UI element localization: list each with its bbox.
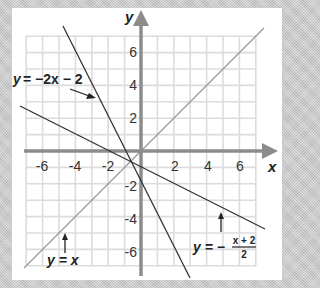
x-tick-label: -6 <box>36 158 49 174</box>
y-tick-label: -6 <box>125 244 138 260</box>
y-tick-label: 6 <box>129 44 137 60</box>
y-tick-label: 4 <box>129 77 137 93</box>
y-tick-label: 2 <box>129 110 137 126</box>
x-axis-label: x <box>267 158 277 175</box>
y-axis-label: y <box>124 8 134 25</box>
eq2-pointer-arrowhead-icon <box>62 233 68 240</box>
y-axis-arrow-icon <box>133 10 149 26</box>
x-tick-label: -2 <box>102 158 115 174</box>
eq3-lhs: y = − <box>192 239 225 255</box>
line-y-eq-x <box>24 28 264 268</box>
x-tick-label: 6 <box>236 158 244 174</box>
y-tick-label: -4 <box>125 211 138 227</box>
eq1-rhs: = −2x − 2 <box>23 71 83 87</box>
x-axis-arrow-icon <box>262 143 278 159</box>
eq2-text: y = x <box>46 252 80 268</box>
eq1-lhs: y <box>12 71 22 87</box>
eq3-numerator: x + 2 <box>233 235 256 246</box>
eq3-denominator: 2 <box>241 249 247 260</box>
coordinate-plane: -6 -4 -2 2 4 6 6 4 2 -2 -4 -6 y x y = −2… <box>0 0 291 288</box>
x-tick-label: 2 <box>171 158 179 174</box>
y-tick-label: -2 <box>125 178 138 194</box>
x-tick-label: -4 <box>69 158 82 174</box>
x-tick-label: 4 <box>204 158 212 174</box>
